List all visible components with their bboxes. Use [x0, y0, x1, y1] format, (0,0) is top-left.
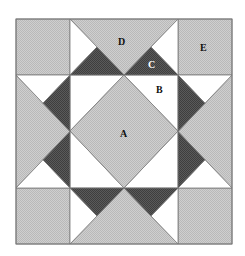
label-e: E [200, 42, 207, 53]
quilt-block-diagram: D C E B A [0, 0, 245, 256]
label-c: C [148, 59, 155, 70]
label-a: A [120, 128, 128, 139]
piece-e-corner-square [16, 188, 70, 244]
piece-e-corner-square [16, 19, 70, 75]
label-d: D [118, 36, 125, 47]
piece-e-corner-square [178, 188, 232, 244]
label-b: B [156, 84, 163, 95]
